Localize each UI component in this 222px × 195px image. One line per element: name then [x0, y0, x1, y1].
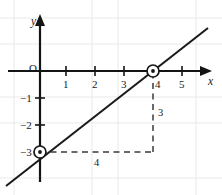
rise-annotation-label: 3 — [158, 108, 163, 119]
graph-canvas — [0, 0, 222, 195]
run-annotation-label: 4 — [94, 158, 99, 169]
point-x-intercept — [147, 65, 159, 77]
x-tick-label-1: 1 — [63, 79, 69, 90]
x-tick-label-4: 4 — [155, 79, 161, 90]
x-tick-label-3: 3 — [121, 79, 127, 90]
y-axis-arrowhead — [35, 14, 45, 26]
origin-label: O — [29, 63, 37, 74]
x-tick-label-5: 5 — [179, 79, 185, 90]
x-tick-label-2: 2 — [92, 79, 98, 90]
x-axis-label: x — [208, 76, 213, 88]
x-axis — [8, 66, 212, 76]
point-y-intercept — [34, 146, 46, 158]
plotted-line — [6, 28, 208, 186]
y-tick-label-minus-3: −3 — [20, 147, 32, 158]
y-axis-label: y — [31, 16, 36, 28]
coordinate-plane-figure: y x O 1 2 3 4 5 −1 −2 −3 3 4 — [0, 0, 222, 195]
y-tick-label-minus-2: −2 — [20, 120, 32, 131]
y-tick-label-minus-1: −1 — [20, 93, 32, 104]
